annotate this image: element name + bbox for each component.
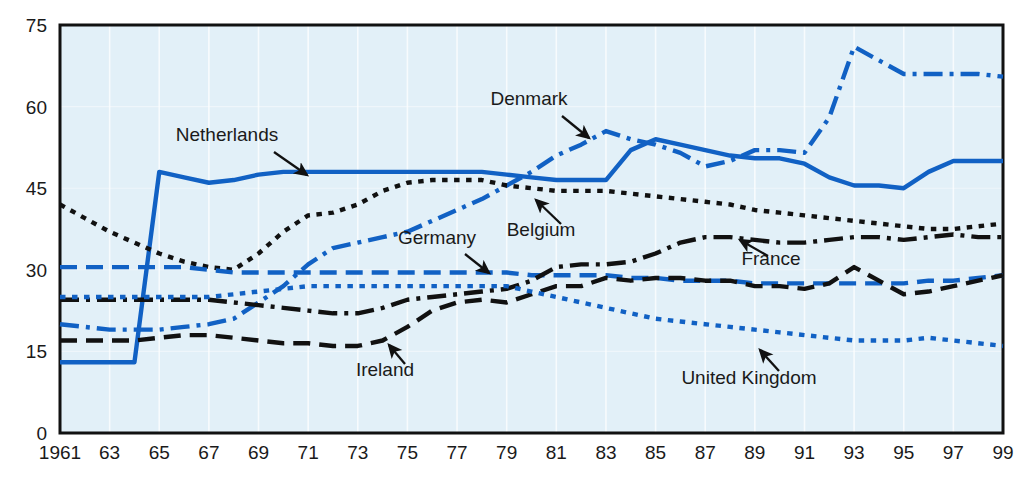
x-tick-label: 91: [794, 442, 815, 463]
x-tick-label: 63: [99, 442, 120, 463]
annotation-label: Belgium: [507, 219, 576, 240]
y-tick-label: 60: [26, 97, 47, 118]
x-tick-label: 93: [844, 442, 865, 463]
y-tick-label: 15: [26, 341, 47, 362]
annotation-label: Germany: [398, 227, 477, 248]
y-tick-label: 45: [26, 178, 47, 199]
x-tick-label: 71: [298, 442, 319, 463]
annotation-label: Netherlands: [176, 124, 278, 145]
x-tick-label: 95: [893, 442, 914, 463]
x-tick-label: 65: [149, 442, 170, 463]
x-tick-label: 73: [347, 442, 368, 463]
x-tick-label: 99: [992, 442, 1013, 463]
x-tick-label: 89: [744, 442, 765, 463]
x-tick-label: 97: [943, 442, 964, 463]
x-tick-label: 83: [595, 442, 616, 463]
y-tick-label: 75: [26, 15, 47, 36]
x-tick-label: 79: [496, 442, 517, 463]
annotation-label: United Kingdom: [681, 367, 816, 388]
x-tick-label: 69: [248, 442, 269, 463]
x-tick-label: 81: [546, 442, 567, 463]
x-tick-label: 75: [397, 442, 418, 463]
y-tick-label: 30: [26, 260, 47, 281]
line-chart: 75604530150 1961636567697173757779818385…: [0, 0, 1035, 487]
chart-figure: 75604530150 1961636567697173757779818385…: [0, 0, 1035, 487]
x-tick-label: 1961: [39, 442, 81, 463]
x-tick-label: 85: [645, 442, 666, 463]
annotation-label: Denmark: [490, 88, 568, 109]
x-tick-label: 77: [446, 442, 467, 463]
annotation-label: Ireland: [356, 359, 414, 380]
annotation-label: France: [741, 248, 800, 269]
x-tick-label: 67: [198, 442, 219, 463]
x-tick-label: 87: [695, 442, 716, 463]
y-tick-label: 0: [36, 423, 47, 444]
